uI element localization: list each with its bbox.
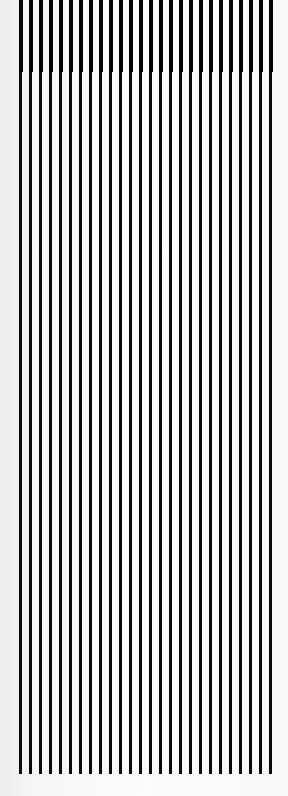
stripe-line-top-band xyxy=(199,0,203,72)
stripe-line xyxy=(259,0,262,774)
stripe-line xyxy=(219,0,222,774)
stripe-line-top-band xyxy=(49,0,53,72)
stripe-line-top-band xyxy=(39,0,43,72)
stripe-line-top-band xyxy=(239,0,243,72)
stripe-line-top-band xyxy=(109,0,113,72)
stripe-line xyxy=(29,0,32,774)
stripe-line-top-band xyxy=(119,0,123,72)
stripe-line xyxy=(99,0,102,774)
stripe-line xyxy=(189,0,192,774)
stripe-line-top-band xyxy=(229,0,233,72)
stripe-line-top-band xyxy=(19,0,23,72)
stripe-line xyxy=(159,0,162,774)
stripe-line-top-band xyxy=(209,0,213,72)
stripe-line-top-band xyxy=(99,0,103,72)
stripe-line-top-band xyxy=(139,0,143,72)
stripe-line-top-band xyxy=(259,0,263,72)
stripe-line xyxy=(149,0,152,774)
stripe-pattern xyxy=(0,0,288,796)
stripe-line-top-band xyxy=(29,0,33,72)
stripe-line xyxy=(39,0,42,774)
stripe-line xyxy=(69,0,72,774)
stripe-line xyxy=(129,0,132,774)
stripe-line xyxy=(269,0,272,774)
stripe-line xyxy=(109,0,112,774)
stripe-line xyxy=(229,0,232,774)
stripe-line-top-band xyxy=(79,0,83,72)
stripe-line xyxy=(49,0,52,774)
stripe-line xyxy=(249,0,252,774)
stripe-line-top-band xyxy=(179,0,183,72)
stripe-line xyxy=(79,0,82,774)
stripe-line-top-band xyxy=(159,0,163,72)
stripe-line-top-band xyxy=(69,0,73,72)
stripe-line xyxy=(199,0,202,774)
stripe-line-top-band xyxy=(249,0,253,72)
stripe-line-top-band xyxy=(269,0,273,72)
stripe-line-top-band xyxy=(89,0,93,72)
stripe-line xyxy=(209,0,212,774)
stripe-line xyxy=(89,0,92,774)
stripe-line xyxy=(139,0,142,774)
stripe-line xyxy=(119,0,122,774)
stripe-line-top-band xyxy=(189,0,193,72)
stripe-line-top-band xyxy=(129,0,133,72)
stripe-line-top-band xyxy=(219,0,223,72)
stripe-line-top-band xyxy=(169,0,173,72)
stripe-line-top-band xyxy=(59,0,63,72)
stripe-line xyxy=(239,0,242,774)
stripe-line xyxy=(179,0,182,774)
stripe-line xyxy=(169,0,172,774)
stripe-line-top-band xyxy=(149,0,153,72)
stripe-line xyxy=(59,0,62,774)
stripe-line xyxy=(19,0,22,774)
